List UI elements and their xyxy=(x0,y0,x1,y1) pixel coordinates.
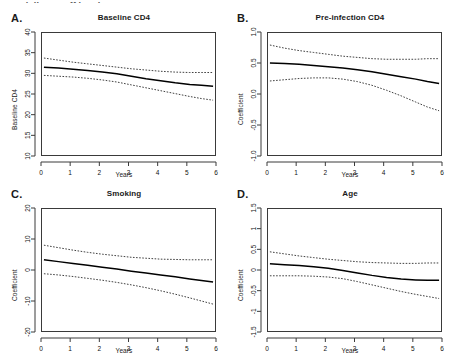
svg-text:4: 4 xyxy=(156,345,160,352)
panel-b-pre-infection-cd4: B. Pre-infection CD4 Coefficient Years -… xyxy=(226,8,452,183)
cropped-header-text: partially cut off header text xyxy=(8,0,238,3)
panel-c-smoking: C. Smoking Coefficient Years -20-1001020… xyxy=(0,184,226,359)
svg-text:1: 1 xyxy=(294,345,298,352)
svg-text:6: 6 xyxy=(214,169,218,176)
svg-text:1.0: 1.0 xyxy=(250,27,257,36)
panel-a-baseline-cd4: A. Baseline CD4 Baseline CD4 Years 10152… xyxy=(0,8,226,183)
svg-text:20: 20 xyxy=(24,111,31,119)
svg-text:-20: -20 xyxy=(24,327,31,337)
svg-text:4: 4 xyxy=(156,169,160,176)
panel-c-plot: -20-10010200123456 xyxy=(0,184,226,359)
figure-panel-grid: A. Baseline CD4 Baseline CD4 Years 10152… xyxy=(0,8,453,359)
svg-text:0: 0 xyxy=(24,268,31,272)
svg-text:-1.0: -1.0 xyxy=(250,150,257,162)
svg-text:1: 1 xyxy=(250,226,257,230)
panel-d-plot: -1.5-1-0.500.511.50123456 xyxy=(226,184,452,359)
svg-text:10: 10 xyxy=(24,152,31,160)
svg-text:-10: -10 xyxy=(24,296,31,306)
svg-text:5: 5 xyxy=(411,169,415,176)
svg-text:0.5: 0.5 xyxy=(250,244,257,253)
svg-text:40: 40 xyxy=(24,28,31,36)
svg-text:30: 30 xyxy=(24,69,31,77)
svg-text:4: 4 xyxy=(382,345,386,352)
svg-text:2: 2 xyxy=(98,345,102,352)
panel-b-plot: -1.0-0.50.00.51.00123456 xyxy=(226,8,452,183)
svg-text:0.0: 0.0 xyxy=(250,89,257,98)
svg-text:5: 5 xyxy=(185,345,189,352)
svg-text:1.5: 1.5 xyxy=(250,203,257,212)
svg-text:0: 0 xyxy=(265,345,269,352)
svg-text:2: 2 xyxy=(324,345,328,352)
svg-text:4: 4 xyxy=(382,169,386,176)
svg-text:15: 15 xyxy=(24,131,31,139)
svg-text:5: 5 xyxy=(185,169,189,176)
svg-text:6: 6 xyxy=(440,345,444,352)
svg-text:-1.5: -1.5 xyxy=(250,326,257,338)
svg-text:3: 3 xyxy=(353,169,357,176)
svg-text:1: 1 xyxy=(68,169,72,176)
svg-text:0: 0 xyxy=(265,169,269,176)
svg-text:3: 3 xyxy=(127,345,131,352)
svg-text:10: 10 xyxy=(24,235,31,243)
svg-text:3: 3 xyxy=(353,345,357,352)
svg-text:3: 3 xyxy=(127,169,131,176)
svg-text:6: 6 xyxy=(214,345,218,352)
svg-text:-0.5: -0.5 xyxy=(250,119,257,131)
svg-text:0: 0 xyxy=(250,268,257,272)
panel-d-age: D. Age Coefficient Years -1.5-1-0.500.51… xyxy=(226,184,452,359)
svg-text:0.5: 0.5 xyxy=(250,58,257,67)
svg-text:6: 6 xyxy=(440,169,444,176)
svg-text:1: 1 xyxy=(68,345,72,352)
svg-text:0: 0 xyxy=(39,169,43,176)
svg-text:0: 0 xyxy=(39,345,43,352)
svg-text:-1: -1 xyxy=(250,308,257,314)
svg-text:20: 20 xyxy=(24,204,31,212)
svg-text:2: 2 xyxy=(324,169,328,176)
cropped-header-label: partially cut off header text xyxy=(8,1,129,3)
panel-a-plot: 101520253035400123456 xyxy=(0,8,226,183)
svg-text:25: 25 xyxy=(24,90,31,98)
svg-text:1: 1 xyxy=(294,169,298,176)
svg-text:2: 2 xyxy=(98,169,102,176)
svg-text:35: 35 xyxy=(24,49,31,57)
svg-text:-0.5: -0.5 xyxy=(250,285,257,297)
svg-text:5: 5 xyxy=(411,345,415,352)
